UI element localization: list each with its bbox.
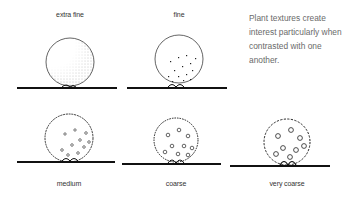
shrub-extra-fine	[17, 34, 117, 88]
label-medium: medium	[29, 180, 109, 187]
shrub-fine	[127, 35, 227, 88]
caption-text: Plant textures create interest particula…	[249, 11, 347, 67]
label-very-coarse: very coarse	[247, 180, 327, 187]
shrub-medium	[17, 114, 115, 162]
label-fine: fine	[139, 11, 219, 18]
shrub-coarse	[122, 118, 221, 164]
label-coarse: coarse	[136, 180, 216, 187]
label-extra-fine: extra fine	[30, 11, 110, 18]
shrub-very-coarse	[230, 119, 330, 166]
